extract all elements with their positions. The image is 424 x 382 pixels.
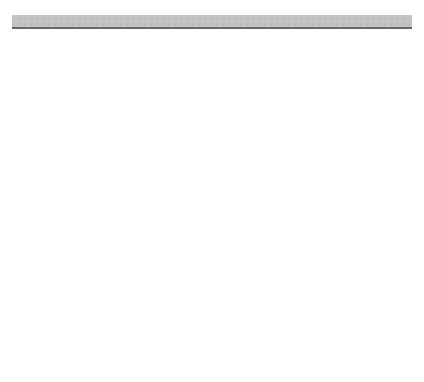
ceiling [12,15,412,28]
pulley-diagram [0,0,424,382]
pulley-diagram-graphic [0,0,424,382]
